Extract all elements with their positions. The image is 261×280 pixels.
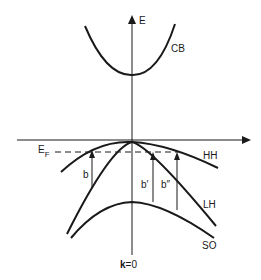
transition-b-double-prime-arrowhead-icon xyxy=(174,152,180,160)
band-label-lh: LH xyxy=(203,199,216,210)
transition-b-prime-label: b′ xyxy=(141,179,149,190)
energy-axis xyxy=(128,15,136,255)
energy-axis-arrow-icon xyxy=(128,15,136,24)
conduction-band-curve xyxy=(85,24,175,75)
band-label-so: SO xyxy=(202,240,217,251)
energy-axis-label: E xyxy=(139,15,146,26)
k-axis-arrow-icon xyxy=(242,136,251,144)
k-origin-label: k=0 xyxy=(120,259,137,270)
band-label-hh: HH xyxy=(203,150,217,161)
fermi-level-label: EF xyxy=(38,144,50,159)
split-off-band-curve xyxy=(71,202,214,238)
band-diagram: E CB HH LH SO EF b b′ b″ k=0 xyxy=(0,0,261,280)
transition-b-label: b xyxy=(83,169,89,180)
band-label-cb: CB xyxy=(171,43,185,54)
transition-b-double-prime-label: b″ xyxy=(161,179,171,190)
